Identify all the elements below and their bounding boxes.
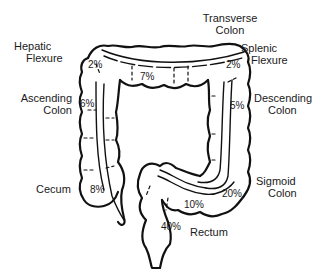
label-line: Descending	[254, 92, 312, 104]
label-line: Transverse	[203, 12, 258, 24]
label-sigmoid-colon: Sigmoid Colon	[256, 175, 297, 199]
descending-colon-outline	[244, 62, 250, 196]
percent-hepatic-flexure: 2%	[88, 59, 102, 70]
label-line: Ascending	[16, 92, 72, 104]
label-line: Colon	[256, 187, 297, 199]
label-line: Colon	[203, 24, 258, 36]
percent-cecum: 8%	[90, 184, 104, 195]
percent-descending-colon: 5%	[230, 100, 244, 111]
label-line: Flexure	[241, 54, 288, 66]
label-line: Sigmoid	[256, 175, 297, 187]
label-hepatic-flexure: Hepatic Flexure	[14, 40, 66, 64]
label-ascending-colon: Ascending Colon	[16, 92, 72, 116]
label-rectum: Rectum	[190, 226, 228, 238]
percent-transverse-colon: 7%	[140, 71, 154, 82]
label-line: Hepatic	[14, 40, 66, 52]
label-line: Cecum	[36, 183, 71, 195]
percent-rectum: 40%	[161, 221, 181, 232]
label-transverse-colon: Transverse Colon	[203, 12, 258, 36]
label-line: Flexure	[14, 52, 66, 64]
percent-splenic-flexure: 2%	[226, 59, 240, 70]
percent-sigmoid-colon: 20%	[222, 188, 242, 199]
label-line: Splenic	[241, 42, 288, 54]
label-line: Rectum	[190, 226, 228, 238]
percent-ascending-colon: 6%	[80, 98, 94, 109]
label-line: Colon	[16, 104, 72, 116]
label-line: Colon	[254, 104, 312, 116]
label-cecum: Cecum	[36, 183, 71, 195]
label-descending-colon: Descending Colon	[254, 92, 312, 116]
percent-rectosigmoid: 10%	[184, 199, 204, 210]
label-splenic-flexure-text: Splenic Flexure	[241, 42, 288, 66]
